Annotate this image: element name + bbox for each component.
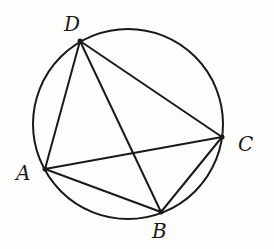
vertex-A <box>43 167 48 172</box>
vertex-D <box>78 39 83 44</box>
segment-DC <box>80 41 222 137</box>
vertex-C <box>220 135 225 140</box>
label-C: C <box>238 132 253 156</box>
segment-AD <box>45 41 80 169</box>
cyclic-quadrilateral-diagram: A B C D <box>0 0 274 249</box>
segment-CB <box>161 137 222 212</box>
segments <box>45 41 222 212</box>
label-A: A <box>14 161 30 185</box>
vertex-B <box>159 210 164 215</box>
label-B: B <box>151 219 167 243</box>
circumcircle <box>33 29 223 219</box>
label-D: D <box>63 12 80 36</box>
